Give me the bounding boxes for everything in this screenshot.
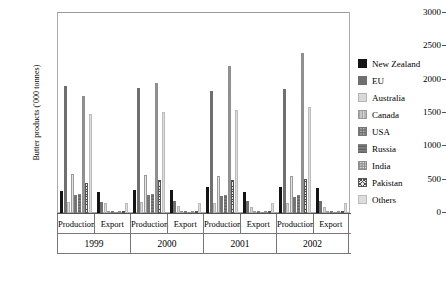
bar-usa: [74, 195, 77, 213]
bar-usa: [330, 211, 333, 213]
bar-australia: [286, 203, 289, 213]
legend-swatch-icon: [358, 178, 367, 187]
bar-eu: [137, 88, 140, 213]
category-axis-labels: ProductionExportProductionExportProducti…: [57, 214, 351, 234]
bar-india: [155, 83, 158, 213]
bar-pakistan: [231, 180, 234, 213]
category-label-production: Production: [57, 214, 94, 234]
legend-label: USA: [372, 127, 390, 137]
bar-australia: [177, 206, 180, 213]
bar-group: [131, 13, 168, 213]
legend-item-canada[interactable]: Canada: [358, 106, 446, 123]
legend-label: Russia: [372, 144, 396, 154]
bar-newzealand: [60, 191, 63, 213]
bar-others: [344, 203, 347, 213]
bar-canada: [253, 211, 256, 213]
category-label-export: Export: [240, 214, 277, 234]
bar-russia: [224, 195, 227, 213]
y-tick-mark: [442, 45, 446, 46]
bar-pakistan: [158, 180, 161, 213]
legend-swatch-icon: [358, 195, 367, 204]
bar-india: [191, 211, 194, 213]
bar-group: [314, 13, 351, 213]
y-tick-0: 0: [389, 213, 446, 223]
bar-group: [95, 13, 132, 213]
year-label-2002: 2002: [276, 234, 349, 254]
bar-canada: [217, 176, 220, 213]
bar-newzealand: [316, 188, 319, 213]
bar-australia: [250, 207, 253, 213]
bar-group: [277, 13, 314, 213]
legend-item-others[interactable]: Others: [358, 191, 446, 208]
bar-russia: [78, 194, 81, 213]
bar-india: [82, 96, 85, 213]
legend-item-russia[interactable]: Russia: [358, 140, 446, 157]
bar-group: [204, 13, 241, 213]
y-tick-label: 0: [437, 207, 442, 217]
legend-item-india[interactable]: India: [358, 157, 446, 174]
bar-eu: [319, 201, 322, 213]
bar-pakistan: [304, 179, 307, 213]
bar-newzealand: [97, 192, 100, 213]
bar-pakistan: [341, 211, 344, 213]
bar-usa: [220, 196, 223, 213]
bar-eu: [246, 201, 249, 213]
bar-eu: [210, 91, 213, 213]
bar-pakistan: [268, 211, 271, 213]
bar-canada: [71, 174, 74, 213]
year-label-2001: 2001: [203, 234, 276, 254]
bar-russia: [297, 195, 300, 213]
legend-label: Australia: [372, 93, 405, 103]
category-label-production: Production: [130, 214, 167, 234]
bar-others: [308, 107, 311, 213]
bar-india: [228, 66, 231, 213]
year-axis-divider: [57, 253, 351, 254]
bar-newzealand: [170, 190, 173, 213]
bar-newzealand: [206, 187, 209, 213]
bar-canada: [180, 211, 183, 213]
bar-eu: [64, 86, 67, 213]
bar-australia: [67, 202, 70, 213]
bar-newzealand: [243, 192, 246, 213]
bar-canada: [107, 211, 110, 213]
bar-india: [264, 211, 267, 213]
bar-australia: [140, 202, 143, 213]
legend-item-usa[interactable]: USA: [358, 123, 446, 140]
legend-swatch-icon: [358, 144, 367, 153]
category-label-export: Export: [313, 214, 350, 234]
category-label-production: Production: [203, 214, 240, 234]
bar-others: [235, 110, 238, 213]
y-tick-mark: [442, 212, 446, 213]
legend-item-australia[interactable]: Australia: [358, 89, 446, 106]
legend-label: Canada: [372, 110, 399, 120]
bar-canada: [326, 211, 329, 213]
legend-item-newzealand[interactable]: New Zealand: [358, 55, 446, 72]
bar-others: [89, 114, 92, 213]
year-axis-labels: 1999200020012002: [57, 234, 351, 254]
legend-item-eu[interactable]: EU: [358, 72, 446, 89]
year-label-2000: 2000: [130, 234, 203, 254]
legend-label: India: [372, 161, 391, 171]
bar-india: [118, 211, 121, 213]
legend-item-pakistan[interactable]: Pakistan: [358, 174, 446, 191]
bar-usa: [184, 211, 187, 213]
legend-swatch-icon: [358, 110, 367, 119]
category-label-export: Export: [167, 214, 204, 234]
y-tick-mark: [442, 12, 446, 13]
bar-newzealand: [133, 190, 136, 213]
bar-australia: [213, 203, 216, 213]
year-label-1999: 1999: [57, 234, 130, 254]
category-label-export: Export: [94, 214, 131, 234]
bar-others: [271, 203, 274, 213]
legend-swatch-icon: [358, 161, 367, 170]
bar-russia: [261, 212, 264, 213]
bar-canada: [290, 176, 293, 213]
bar-others: [198, 203, 201, 213]
butter-products-bar-chart: Butter products ('000 tonnes) 0500100015…: [0, 0, 446, 284]
bar-canada: [144, 175, 147, 213]
legend-label: New Zealand: [372, 59, 420, 69]
bar-group: [58, 13, 95, 213]
bar-others: [162, 112, 165, 213]
bar-usa: [257, 211, 260, 213]
legend-swatch-icon: [358, 76, 367, 85]
